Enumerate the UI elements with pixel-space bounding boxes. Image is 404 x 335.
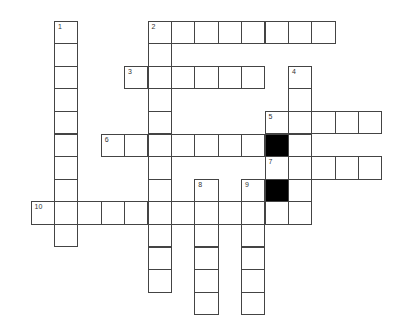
crossword-cell[interactable] [77,201,101,225]
crossword-cell[interactable] [194,21,218,45]
crossword-cell[interactable] [194,224,218,248]
crossword-cell[interactable] [288,179,312,203]
crossword-cell[interactable] [311,111,335,135]
crossword-cell[interactable] [148,43,172,67]
crossword-cell[interactable]: 1 [54,21,78,45]
clue-number: 4 [292,68,296,75]
clue-number: 10 [35,203,43,210]
clue-number: 2 [152,23,156,30]
crossword-cell[interactable] [335,111,359,135]
crossword-cell[interactable] [288,88,312,112]
crossword-cell[interactable] [54,201,78,225]
crossword-cell[interactable]: 9 [241,179,265,203]
crossword-cell[interactable] [265,201,289,225]
clue-number: 9 [245,181,249,188]
crossword-cell[interactable] [148,134,172,158]
crossword-grid: 12345678910 [0,0,404,335]
crossword-cell[interactable] [311,156,335,180]
crossword-cell[interactable]: 2 [148,21,172,45]
clue-number: 3 [128,68,132,75]
crossword-cell[interactable] [194,134,218,158]
crossword-cell[interactable] [101,201,125,225]
crossword-cell[interactable]: 8 [194,179,218,203]
black-cell [265,134,289,158]
crossword-cell[interactable] [288,111,312,135]
black-cell [265,179,289,203]
crossword-cell[interactable] [194,247,218,271]
crossword-cell[interactable] [148,247,172,271]
crossword-cell[interactable] [148,156,172,180]
crossword-cell[interactable] [148,201,172,225]
crossword-cell[interactable] [54,43,78,67]
crossword-cell[interactable] [358,111,382,135]
crossword-cell[interactable] [241,224,265,248]
crossword-cell[interactable] [194,292,218,316]
crossword-cell[interactable] [288,134,312,158]
crossword-cell[interactable] [54,88,78,112]
crossword-cell[interactable] [194,66,218,90]
crossword-cell[interactable]: 4 [288,66,312,90]
clue-number: 8 [198,181,202,188]
crossword-cell[interactable] [148,88,172,112]
crossword-cell[interactable] [148,111,172,135]
crossword-cell[interactable] [171,66,195,90]
crossword-cell[interactable] [194,201,218,225]
crossword-cell[interactable]: 3 [124,66,148,90]
crossword-cell[interactable] [171,21,195,45]
crossword-cell[interactable] [335,156,359,180]
crossword-cell[interactable] [241,66,265,90]
crossword-cell[interactable] [171,201,195,225]
crossword-cell[interactable] [148,269,172,293]
crossword-cell[interactable] [54,66,78,90]
crossword-cell[interactable] [54,179,78,203]
crossword-cell[interactable] [218,21,242,45]
crossword-cell[interactable] [241,21,265,45]
crossword-cell[interactable] [311,21,335,45]
crossword-cell[interactable] [241,269,265,293]
crossword-cell[interactable] [148,224,172,248]
crossword-cell[interactable] [241,292,265,316]
crossword-cell[interactable]: 6 [101,134,125,158]
crossword-cell[interactable] [124,134,148,158]
crossword-cell[interactable] [218,134,242,158]
crossword-cell[interactable] [54,134,78,158]
clue-number: 7 [269,158,273,165]
crossword-cell[interactable] [218,66,242,90]
crossword-cell[interactable]: 5 [265,111,289,135]
crossword-cell[interactable] [148,66,172,90]
crossword-cell[interactable] [148,179,172,203]
crossword-cell[interactable] [218,201,242,225]
crossword-cell[interactable] [265,21,289,45]
crossword-cell[interactable]: 7 [265,156,289,180]
crossword-cell[interactable] [288,201,312,225]
crossword-cell[interactable] [288,21,312,45]
clue-number: 6 [105,136,109,143]
clue-number: 5 [269,113,273,120]
crossword-cell[interactable] [54,156,78,180]
crossword-cell[interactable] [194,269,218,293]
crossword-cell[interactable] [54,111,78,135]
crossword-cell[interactable] [124,201,148,225]
crossword-cell[interactable] [358,156,382,180]
crossword-cell[interactable] [241,247,265,271]
crossword-cell[interactable] [288,156,312,180]
clue-number: 1 [58,23,62,30]
crossword-cell[interactable] [54,224,78,248]
crossword-cell[interactable] [171,134,195,158]
crossword-cell[interactable] [241,201,265,225]
crossword-cell[interactable] [241,134,265,158]
crossword-cell[interactable]: 10 [31,201,55,225]
